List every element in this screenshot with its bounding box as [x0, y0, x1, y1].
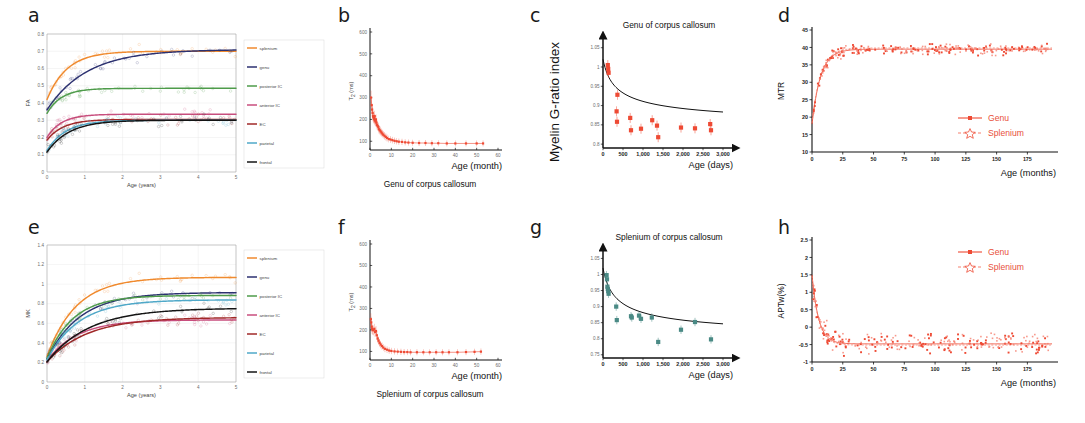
- svg-text:2,000: 2,000: [676, 361, 690, 367]
- svg-text:0.5: 0.5: [38, 83, 45, 88]
- svg-text:200: 200: [359, 328, 367, 333]
- panel-a-chart: 00.10.20.30.40.50.60.70.8012345Age (year…: [0, 0, 330, 212]
- svg-text:75: 75: [901, 366, 907, 372]
- svg-text:2: 2: [121, 175, 124, 180]
- svg-text:2,000: 2,000: [676, 151, 690, 157]
- svg-text:Age (years): Age (years): [127, 392, 156, 398]
- svg-text:APTw(%): APTw(%): [776, 283, 786, 318]
- svg-text:1: 1: [84, 175, 87, 180]
- panel-b: b 1002003004005006000102030405060T2 (ms)…: [330, 0, 525, 212]
- svg-text:anterior IC: anterior IC: [260, 313, 281, 318]
- svg-text:0.1: 0.1: [38, 152, 45, 157]
- svg-text:parietal: parietal: [260, 141, 274, 146]
- svg-text:splenium: splenium: [260, 256, 278, 261]
- svg-text:T2 (ms): T2 (ms): [348, 292, 356, 311]
- svg-text:60: 60: [495, 153, 501, 158]
- svg-text:Age (years): Age (years): [127, 182, 156, 188]
- svg-text:50: 50: [871, 366, 877, 372]
- svg-text:100: 100: [359, 349, 367, 354]
- svg-text:125: 125: [961, 366, 970, 372]
- svg-text:30: 30: [802, 79, 808, 85]
- svg-text:175: 175: [1023, 366, 1032, 372]
- svg-text:60: 60: [495, 363, 501, 368]
- svg-text:0.2: 0.2: [38, 135, 45, 140]
- svg-text:75: 75: [901, 156, 907, 162]
- svg-text:100: 100: [931, 366, 940, 372]
- svg-text:0.8: 0.8: [593, 336, 600, 341]
- svg-text:300: 300: [359, 306, 367, 311]
- svg-text:parietal: parietal: [260, 351, 274, 356]
- svg-text:2,500: 2,500: [696, 151, 710, 157]
- svg-text:posterior IC: posterior IC: [260, 84, 283, 89]
- svg-text:0.8: 0.8: [38, 32, 45, 37]
- svg-text:Myelin G-ratio index: Myelin G-ratio index: [547, 42, 562, 162]
- svg-text:10: 10: [389, 153, 395, 158]
- svg-text:0.6: 0.6: [38, 321, 45, 326]
- svg-text:15: 15: [802, 132, 808, 138]
- svg-text:Splenium of corpus callosum: Splenium of corpus callosum: [615, 232, 722, 242]
- svg-text:100: 100: [359, 139, 367, 144]
- panel-a: a 00.10.20.30.40.50.60.70.8012345Age (ye…: [0, 0, 330, 212]
- svg-text:1,500: 1,500: [656, 151, 670, 157]
- svg-text:Age (months): Age (months): [1001, 168, 1056, 178]
- panel-e-label: e: [28, 218, 40, 237]
- svg-text:600: 600: [359, 30, 367, 35]
- svg-text:25: 25: [840, 366, 846, 372]
- panel-f-chart: 1002003004005006000102030405060T2 (ms)Ag…: [330, 212, 525, 423]
- svg-text:posterior IC: posterior IC: [260, 294, 283, 299]
- svg-text:200: 200: [359, 117, 367, 122]
- panel-d-chart: 10152025303540450255075100125150175Age (…: [760, 0, 1085, 212]
- svg-text:genu: genu: [260, 65, 270, 70]
- svg-text:3,000: 3,000: [716, 361, 730, 367]
- svg-text:5: 5: [235, 175, 238, 180]
- svg-text:T2 (ms): T2 (ms): [348, 81, 356, 100]
- svg-text:50: 50: [474, 363, 480, 368]
- panel-f-label: f: [338, 218, 345, 237]
- svg-text:0: 0: [602, 361, 605, 367]
- svg-text:125: 125: [961, 156, 970, 162]
- svg-text:1,500: 1,500: [656, 361, 670, 367]
- svg-text:splenium: splenium: [260, 46, 278, 51]
- svg-text:300: 300: [359, 95, 367, 100]
- svg-text:Splenium: Splenium: [988, 262, 1024, 272]
- svg-text:0: 0: [805, 324, 808, 330]
- svg-text:Age (days): Age (days): [689, 370, 733, 380]
- svg-text:Genu: Genu: [988, 113, 1009, 123]
- svg-text:0.4: 0.4: [38, 341, 45, 346]
- svg-text:FA: FA: [25, 99, 31, 106]
- svg-text:frontal: frontal: [260, 370, 272, 375]
- svg-text:0: 0: [46, 385, 49, 390]
- panel-e: e 00.20.40.60.811.21.4012345Age (years)M…: [0, 212, 330, 423]
- svg-text:0.5: 0.5: [801, 307, 809, 313]
- svg-text:2.5: 2.5: [801, 237, 809, 243]
- svg-text:20: 20: [802, 114, 808, 120]
- svg-text:600: 600: [359, 242, 367, 247]
- svg-text:0.7: 0.7: [38, 49, 45, 54]
- svg-text:Age (days): Age (days): [689, 160, 733, 170]
- svg-text:Age (month): Age (month): [451, 161, 502, 171]
- svg-text:0.8: 0.8: [38, 301, 45, 306]
- panel-a-label: a: [28, 6, 40, 25]
- svg-text:frontal: frontal: [260, 160, 272, 165]
- svg-text:1.05: 1.05: [591, 256, 600, 261]
- svg-text:20: 20: [410, 153, 416, 158]
- svg-text:50: 50: [474, 153, 480, 158]
- svg-text:3: 3: [159, 175, 162, 180]
- svg-text:500: 500: [619, 361, 628, 367]
- svg-text:0: 0: [41, 380, 44, 385]
- svg-text:2,500: 2,500: [696, 361, 710, 367]
- svg-text:20: 20: [410, 363, 416, 368]
- svg-text:genu: genu: [260, 275, 270, 280]
- svg-text:MK: MK: [25, 309, 31, 318]
- svg-text:0.4: 0.4: [38, 101, 45, 106]
- svg-text:0: 0: [811, 366, 814, 372]
- svg-text:10: 10: [389, 363, 395, 368]
- svg-text:40: 40: [453, 363, 459, 368]
- svg-text:0.85: 0.85: [591, 122, 600, 127]
- svg-text:30: 30: [431, 363, 437, 368]
- svg-text:5: 5: [235, 385, 238, 390]
- svg-text:10: 10: [802, 149, 808, 155]
- svg-text:0.75: 0.75: [591, 352, 600, 357]
- svg-text:100: 100: [931, 156, 940, 162]
- svg-text:1.5: 1.5: [801, 272, 809, 278]
